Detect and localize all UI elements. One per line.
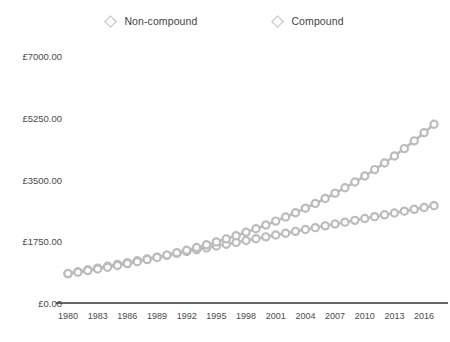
data-point-marker (361, 172, 368, 179)
data-point-marker (153, 254, 160, 261)
data-point-marker (272, 231, 279, 238)
data-point-marker (411, 137, 418, 144)
data-point-marker (391, 152, 398, 159)
data-point-marker (163, 252, 170, 259)
data-point-marker (114, 262, 121, 269)
data-point-marker (391, 209, 398, 216)
data-point-marker (252, 235, 259, 242)
data-point-marker (64, 270, 71, 277)
data-point-marker (74, 269, 81, 276)
data-point-marker (134, 258, 141, 265)
data-point-marker (322, 195, 329, 202)
data-point-marker (144, 256, 151, 263)
data-point-marker (421, 204, 428, 211)
data-point-marker (203, 241, 210, 248)
data-point-marker (272, 218, 279, 225)
data-point-marker (252, 225, 259, 232)
data-point-marker (411, 206, 418, 213)
data-point-marker (401, 208, 408, 215)
data-point-marker (371, 166, 378, 173)
data-point-marker (84, 267, 91, 274)
data-point-marker (351, 178, 358, 185)
data-point-marker (104, 264, 111, 271)
data-point-marker (124, 260, 131, 267)
series-line (68, 124, 434, 273)
data-point-marker (421, 129, 428, 136)
data-point-marker (381, 211, 388, 218)
plot-area (0, 0, 450, 342)
data-point-marker (430, 121, 437, 128)
data-point-marker (183, 247, 190, 254)
data-point-marker (242, 237, 249, 244)
data-point-marker (331, 220, 338, 227)
data-point-marker (282, 230, 289, 237)
data-point-marker (341, 184, 348, 191)
data-point-marker (262, 233, 269, 240)
data-point-marker (223, 235, 230, 242)
data-point-marker (302, 205, 309, 212)
data-point-marker (292, 228, 299, 235)
data-point-marker (371, 213, 378, 220)
data-point-marker (262, 221, 269, 228)
data-point-marker (213, 238, 220, 245)
data-point-marker (233, 232, 240, 239)
data-point-marker (430, 202, 437, 209)
data-point-marker (173, 249, 180, 256)
data-point-marker (193, 244, 200, 251)
data-point-marker (282, 213, 289, 220)
data-point-marker (322, 222, 329, 229)
investment-growth-chart: Non-compound Compound £0.00£1750.00£3500… (0, 0, 450, 342)
data-point-marker (341, 219, 348, 226)
data-point-marker (312, 224, 319, 231)
data-point-marker (302, 226, 309, 233)
series-compound (64, 121, 437, 278)
data-point-marker (401, 145, 408, 152)
data-point-marker (361, 215, 368, 222)
data-point-marker (292, 209, 299, 216)
data-point-marker (381, 159, 388, 166)
data-point-marker (331, 190, 338, 197)
data-point-marker (312, 200, 319, 207)
data-point-marker (94, 265, 101, 272)
data-point-marker (242, 229, 249, 236)
data-point-marker (351, 217, 358, 224)
